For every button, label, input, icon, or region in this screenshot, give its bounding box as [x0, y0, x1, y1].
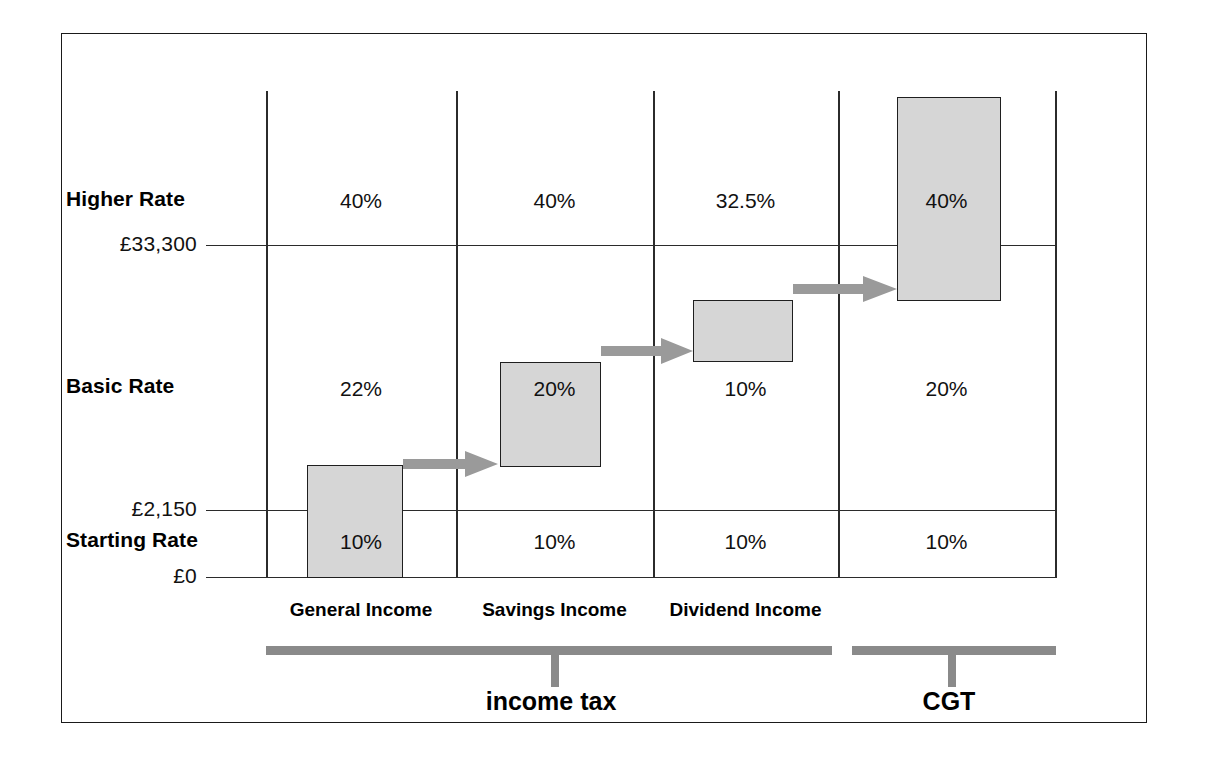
cell-basic-dividend: 10% [653, 377, 838, 401]
bracket-stem-income-tax [551, 652, 559, 687]
cell-higher-cgt: 40% [838, 189, 1055, 213]
bracket-bar-income-tax [266, 646, 832, 655]
band-label-basic-rate: Basic Rate [66, 374, 174, 398]
arrow-dividend-to-cgt [793, 274, 899, 304]
highlight-box-general-income [307, 465, 403, 578]
bracket-caption-income-tax: income tax [431, 687, 671, 716]
grid-vline-1 [266, 91, 268, 578]
cell-basic-general: 22% [266, 377, 456, 401]
band-label-starting-rate: Starting Rate [66, 528, 198, 552]
bracket-stem-cgt [948, 652, 956, 687]
cell-starting-cgt: 10% [838, 530, 1055, 554]
axis-label-33300: £33,300 [57, 232, 197, 256]
grid-vline-3 [653, 91, 655, 578]
axis-label-0: £0 [57, 564, 197, 588]
grid-vline-2 [456, 91, 458, 578]
cell-starting-dividend: 10% [653, 530, 838, 554]
column-caption-dividend-income: Dividend Income [653, 599, 838, 621]
bracket-caption-cgt: CGT [834, 687, 1064, 716]
column-caption-savings-income: Savings Income [456, 599, 653, 621]
cell-higher-general: 40% [266, 189, 456, 213]
figure-page: £33,300 £2,150 £0 Higher Rate Basic Rate… [0, 0, 1207, 781]
grid-vline-4 [838, 91, 840, 578]
cell-basic-cgt: 20% [838, 377, 1055, 401]
arrow-savings-to-dividend [601, 336, 695, 366]
column-caption-general-income: General Income [266, 599, 456, 621]
cell-higher-savings: 40% [456, 189, 653, 213]
grid-vline-5 [1055, 91, 1057, 578]
axis-label-2150: £2,150 [57, 497, 197, 521]
cell-starting-savings: 10% [456, 530, 653, 554]
cell-basic-savings: 20% [456, 377, 653, 401]
arrow-general-to-savings [403, 449, 500, 479]
figure-frame: £33,300 £2,150 £0 Higher Rate Basic Rate… [61, 33, 1147, 723]
highlight-box-dividend-income [693, 300, 793, 362]
cell-higher-dividend: 32.5% [653, 189, 838, 213]
band-label-higher-rate: Higher Rate [66, 187, 185, 211]
cell-starting-general: 10% [266, 530, 456, 554]
